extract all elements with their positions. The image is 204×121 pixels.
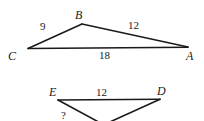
vertex-label-c: C — [8, 50, 16, 62]
side-length-ba: 12 — [128, 20, 139, 31]
vertex-label-e: E — [49, 86, 56, 98]
segment-cb — [28, 24, 82, 49]
triangle-abc-shape — [28, 24, 188, 49]
vertex-label-a: A — [186, 50, 193, 62]
vertex-label-d: D — [157, 85, 166, 97]
side-length-cb: 9 — [40, 21, 46, 32]
side-length-ed: 12 — [96, 87, 107, 98]
triangle-edf-shape — [58, 99, 160, 121]
side-length-ef-unknown: ? — [61, 110, 66, 121]
geometry-figure: C B A 9 12 18 E D 12 ? — [0, 0, 204, 121]
side-length-ca: 18 — [99, 50, 110, 61]
segment-fd — [101, 99, 160, 121]
vertex-label-b: B — [75, 9, 82, 21]
segment-ed — [58, 99, 160, 100]
